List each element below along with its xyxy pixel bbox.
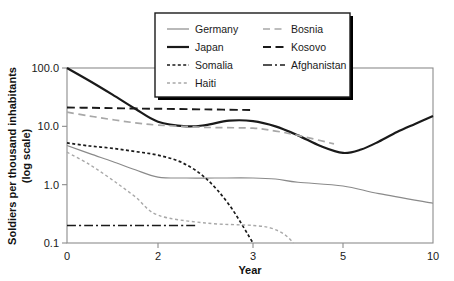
- legend-label: Bosnia: [291, 23, 323, 35]
- y-tick-label: 0.1: [44, 237, 59, 249]
- legend-label: Haiti: [195, 77, 216, 89]
- legend-label: Afghanistan: [291, 59, 347, 71]
- legend-label: Japan: [195, 41, 224, 53]
- x-tick-label: 0: [64, 250, 70, 262]
- legend: GermanyJapanSomaliaHaitiBosniaKosovoAfgh…: [155, 13, 353, 100]
- legend-label: Somalia: [195, 59, 233, 71]
- y-tick-label: 10.0: [38, 120, 59, 132]
- series-line-germany: [67, 145, 433, 203]
- series-line-kosovo: [67, 108, 253, 111]
- chart-canvas: 100.010.01.00.1 023510 Soldiers per thou…: [0, 0, 454, 281]
- y-axis-title-line1: Soldiers per thousand inhabitants: [6, 67, 18, 245]
- x-tick-label: 5: [340, 250, 346, 262]
- series-line-somalia: [67, 143, 253, 243]
- x-axis-tick-labels: 023510: [64, 250, 439, 262]
- y-tick-label: 100.0: [31, 62, 59, 74]
- x-tick-label: 10: [427, 250, 439, 262]
- legend-label: Kosovo: [291, 41, 326, 53]
- series-line-haiti: [67, 152, 294, 243]
- chart-figure: 100.010.01.00.1 023510 Soldiers per thou…: [0, 0, 454, 281]
- x-tick-label: 2: [155, 250, 161, 262]
- x-axis-ticks: [158, 243, 343, 248]
- y-axis-title: Soldiers per thousand inhabitants (log s…: [6, 67, 32, 245]
- y-axis-title-line2: (log scale): [20, 128, 32, 183]
- y-axis-tick-labels: 100.010.01.00.1: [31, 62, 59, 249]
- series-line-bosnia: [67, 112, 334, 144]
- y-axis-ticks: [62, 68, 67, 243]
- legend-label: Germany: [195, 23, 239, 35]
- x-axis-title-text: Year: [238, 264, 262, 276]
- x-axis-title: Year: [238, 264, 262, 276]
- y-tick-label: 1.0: [44, 179, 59, 191]
- x-tick-label: 3: [250, 250, 256, 262]
